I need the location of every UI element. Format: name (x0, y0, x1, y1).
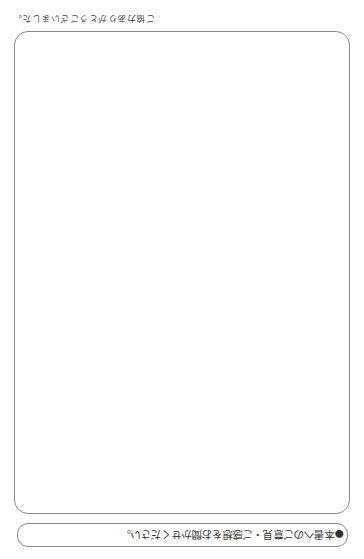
prompt-label: 本書へのご意見・ご感想をお聞かせください。 (120, 529, 334, 541)
bullet-icon: ● (335, 529, 344, 541)
prompt-text: ●本書へのご意見・ご感想をお聞かせください。 (120, 528, 344, 542)
answer-area[interactable] (14, 31, 350, 514)
closing-message: ご協力ありがとうございました。 (12, 13, 155, 25)
feedback-sheet: ●本書へのご意見・ご感想をお聞かせください。 ご協力ありがとうございました。 (0, 0, 364, 559)
prompt-box: ●本書へのご意見・ご感想をお聞かせください。 (17, 523, 348, 547)
